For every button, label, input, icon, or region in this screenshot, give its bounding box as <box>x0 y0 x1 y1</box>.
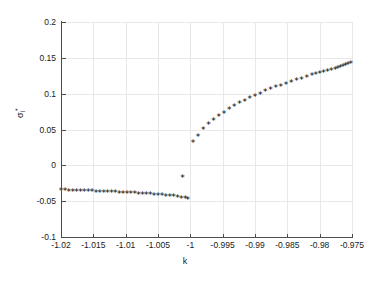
x-tick-label: -1.015 <box>81 241 105 250</box>
x-tick-mark <box>223 234 224 238</box>
y-tick-mark <box>62 165 66 166</box>
y-tick-mark <box>62 58 66 59</box>
x-axis-label: k <box>0 256 370 266</box>
x-tick-label: -0.985 <box>275 241 299 250</box>
gridline-horizontal <box>61 22 352 23</box>
y-tick-label: 0 <box>0 161 56 170</box>
x-tick-mark <box>190 234 191 238</box>
x-tick-mark <box>126 234 127 238</box>
x-tick-label: -0.98 <box>310 241 329 250</box>
x-tick-mark <box>352 234 353 238</box>
plot-area: ****************************************… <box>61 22 352 237</box>
x-tick-label: -1.005 <box>146 241 170 250</box>
gridline-horizontal <box>61 201 352 202</box>
y-axis-label: σi* <box>14 108 26 118</box>
y-tick-label: 0.05 <box>0 126 56 135</box>
x-tick-mark <box>158 234 159 238</box>
x-tick-label: -1 <box>187 241 195 250</box>
x-tick-label: -0.995 <box>211 241 235 250</box>
x-tick-label: -0.99 <box>245 241 264 250</box>
gridline-horizontal <box>61 165 352 166</box>
y-tick-mark <box>62 130 66 131</box>
x-tick-mark <box>61 234 62 238</box>
x-axis-line <box>61 237 353 238</box>
x-tick-label: -1.02 <box>51 241 70 250</box>
y-tick-label: 0.15 <box>0 54 56 63</box>
gridline-horizontal <box>61 94 352 95</box>
y-tick-mark <box>62 237 66 238</box>
x-tick-mark <box>255 234 256 238</box>
gridline-horizontal <box>61 130 352 131</box>
y-tick-mark <box>62 22 66 23</box>
y-tick-label: 0.2 <box>0 18 56 27</box>
y-tick-mark <box>62 201 66 202</box>
x-tick-label: -1.01 <box>116 241 135 250</box>
figure-canvas: ****************************************… <box>0 0 370 288</box>
gridline-vertical <box>352 22 353 237</box>
gridline-horizontal <box>61 58 352 59</box>
x-tick-mark <box>320 234 321 238</box>
x-tick-mark <box>93 234 94 238</box>
x-tick-label: -0.975 <box>340 241 364 250</box>
y-tick-label: -0.05 <box>0 197 56 206</box>
x-tick-mark <box>287 234 288 238</box>
y-tick-mark <box>62 94 66 95</box>
y-tick-label: 0.1 <box>0 90 56 99</box>
y-tick-label: -0.1 <box>0 233 56 242</box>
